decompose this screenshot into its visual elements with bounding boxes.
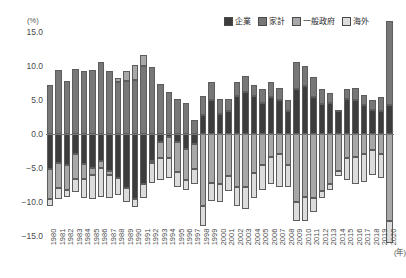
x-axis-tick: 1980 xyxy=(46,236,54,278)
bar-segment xyxy=(251,173,257,197)
bar-segment xyxy=(378,134,384,154)
bar-segment xyxy=(225,99,231,111)
legend-swatch-icon xyxy=(224,17,233,26)
x-axis-tick: 1988 xyxy=(114,236,122,278)
y-axis-tick: −15.0 xyxy=(1,232,43,241)
bar-segment xyxy=(106,71,112,134)
bar-segment xyxy=(183,180,189,190)
bar-segment xyxy=(72,154,78,178)
x-axis-tick: 2019 xyxy=(377,236,385,278)
bar-segment xyxy=(149,134,155,161)
bar-segment xyxy=(344,89,350,99)
bar-segment xyxy=(352,88,358,100)
bar-segment xyxy=(276,88,282,100)
bar-segment xyxy=(361,134,367,154)
y-axis-tick: 10.0 xyxy=(1,62,43,71)
bar-segment xyxy=(47,199,53,206)
bar-segment xyxy=(89,175,95,199)
bar-segment xyxy=(251,134,257,173)
bar-segment xyxy=(293,89,299,134)
bar-segment xyxy=(115,178,121,196)
legend-item-1[interactable]: 家計 xyxy=(258,17,285,26)
bar-segment xyxy=(200,96,206,115)
bar-segment xyxy=(293,62,299,89)
bar-segment xyxy=(268,82,274,97)
bar-segment xyxy=(72,69,78,134)
bar-segment xyxy=(208,82,214,100)
x-axis-tick: 2002 xyxy=(233,236,241,278)
bar-segment xyxy=(293,134,299,202)
bar-segment xyxy=(285,111,291,134)
bar-segment xyxy=(89,134,95,168)
legend-swatch-icon xyxy=(258,17,267,26)
bar-segment xyxy=(174,99,180,134)
bar-segment xyxy=(335,171,341,176)
bar-segment xyxy=(352,134,358,157)
x-axis-tick: 1996 xyxy=(182,236,190,278)
bar-segment xyxy=(55,134,61,163)
bar-segment xyxy=(344,134,350,158)
bar-segment xyxy=(55,188,61,199)
legend-label: 企業 xyxy=(235,18,251,26)
x-axis-tick: 1982 xyxy=(63,236,71,278)
bar-segment xyxy=(115,78,121,82)
bar-segment xyxy=(217,114,223,134)
x-axis-tick: 1994 xyxy=(165,236,173,278)
bar-segment xyxy=(268,157,274,184)
bar-segment xyxy=(200,134,206,206)
bar-segment xyxy=(378,154,384,177)
bar-segment xyxy=(166,137,172,159)
bar-segment xyxy=(47,169,53,199)
bar-segment xyxy=(208,183,214,201)
bar-segment xyxy=(310,198,316,212)
bar-segment xyxy=(285,134,291,165)
legend-item-3[interactable]: 海外 xyxy=(342,17,369,26)
bar-segment xyxy=(157,134,163,142)
bar-segment xyxy=(234,96,240,134)
bar-segment xyxy=(217,134,223,184)
bar-segment xyxy=(225,111,231,134)
legend-item-0[interactable]: 企業 xyxy=(224,17,251,26)
bar-segment xyxy=(276,100,282,134)
bar-segment xyxy=(106,134,112,171)
y-axis: 15.010.05.00.0−5.0−10.0−15.0 xyxy=(0,0,46,278)
bar-segment xyxy=(123,188,129,202)
bar-segment xyxy=(115,134,121,178)
x-axis-tick: 1981 xyxy=(54,236,62,278)
bar-segment xyxy=(234,82,240,96)
bar-segment xyxy=(327,184,333,189)
bar-segment xyxy=(378,111,384,134)
bar-segment xyxy=(319,191,325,198)
chart-legend: 企業家計一般政府海外 xyxy=(224,17,369,26)
bar-segment xyxy=(81,134,87,164)
x-axis-tick: 1999 xyxy=(207,236,215,278)
bar-segment xyxy=(242,76,248,92)
bar-segment xyxy=(208,100,214,134)
legend-item-2[interactable]: 一般政府 xyxy=(292,17,335,26)
x-axis-tick: 1998 xyxy=(199,236,207,278)
bar-segment xyxy=(352,100,358,134)
bar-segment xyxy=(386,105,392,134)
x-axis-tick: 2015 xyxy=(343,236,351,278)
bar-segment xyxy=(200,206,206,226)
legend-swatch-icon xyxy=(342,17,351,26)
bar-segment xyxy=(259,165,265,189)
bar-segment xyxy=(140,66,146,134)
bar-segment xyxy=(55,163,61,189)
x-axis-tick: 1991 xyxy=(139,236,147,278)
x-axis-tick: 2014 xyxy=(334,236,342,278)
bar-segment xyxy=(64,190,70,197)
bar-segment xyxy=(174,172,180,187)
bar-segment xyxy=(276,134,282,154)
x-axis-tick: 1992 xyxy=(148,236,156,278)
x-axis-tick: 2020 xyxy=(385,236,393,278)
bar-segment xyxy=(115,82,121,134)
bar-segment xyxy=(285,100,291,111)
bar-segment xyxy=(386,134,392,221)
x-axis-tick: 1989 xyxy=(122,236,130,278)
bar-segment xyxy=(361,105,367,134)
bar-segment xyxy=(174,134,180,142)
bar-segment xyxy=(140,134,146,184)
bar-segment xyxy=(234,187,240,206)
